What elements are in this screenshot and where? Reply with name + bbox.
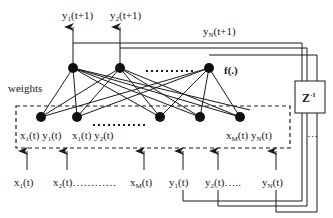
- input-node-2: [72, 112, 82, 122]
- output-label-y2: y2(t+1): [110, 9, 141, 23]
- feedback-input-yN: yN(t): [262, 176, 283, 190]
- feedback-wires-top: [73, 43, 317, 81]
- feedback-input-y2: y2(t)…..: [205, 176, 241, 190]
- input-node-labels-3: xM(t) yN(t): [226, 129, 272, 143]
- external-input-xM: xM(t): [130, 176, 152, 190]
- output-node-1: [68, 63, 78, 73]
- weights-label: weights: [8, 82, 42, 94]
- input-node-labels-1: x1(t) y1(t): [20, 129, 62, 143]
- output-node-N: [204, 63, 214, 73]
- input-node-labels-2: x1(t) y2(t): [72, 129, 114, 143]
- output-node-2: [115, 63, 125, 73]
- feedback-input-y1: y1(t): [169, 176, 189, 190]
- output-label-y1: y1(t+1): [62, 9, 93, 23]
- input-arrows: [27, 151, 276, 170]
- input-node-4: [195, 112, 205, 122]
- activation-label: f(.): [224, 64, 238, 77]
- output-arrows: [73, 27, 120, 66]
- input-node-1: [36, 112, 46, 122]
- feedback-wires-bottom: [183, 113, 317, 212]
- feedback-ellipsis: …: [307, 127, 318, 139]
- external-input-x2: x2(t)…………: [53, 176, 116, 190]
- weight-connections: [41, 68, 250, 117]
- output-label-yN: yN(t+1): [203, 25, 236, 39]
- delay-block: Z-1: [295, 81, 325, 113]
- external-input-x1: x1(t): [14, 176, 34, 190]
- input-node-3: [155, 112, 165, 122]
- input-node-5: [235, 112, 245, 122]
- rnn-diagram: y1(t+1) y2(t+1) yN(t+1) Z-1 …: [0, 0, 333, 218]
